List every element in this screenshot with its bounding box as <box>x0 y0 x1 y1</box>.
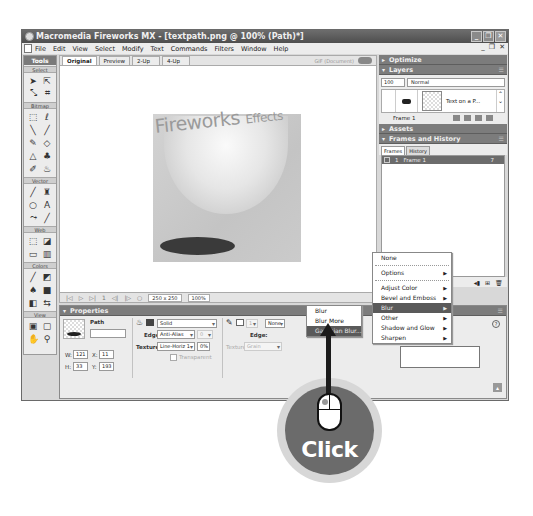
stroke-type-select[interactable]: None <box>265 319 285 328</box>
menu-select[interactable]: Select <box>95 45 115 53</box>
fill-texture-select[interactable]: Line-Horiz 1 <box>157 342 195 351</box>
first-frame-icon[interactable]: |◁ <box>66 294 73 301</box>
visibility-toggle[interactable] <box>382 90 396 112</box>
menu-item-blur[interactable]: Blur▶ <box>373 303 451 313</box>
next-frame-icon[interactable]: |▷ <box>124 294 131 301</box>
doc-close-button[interactable]: ✕ <box>499 43 505 51</box>
stroke-size-select[interactable]: 1 <box>246 319 258 328</box>
canvas-image[interactable]: Fireworks Effects <box>153 114 301 262</box>
frame-label[interactable]: Frame 1 <box>393 115 415 121</box>
layers-scrollbar[interactable]: ⌃⌄ <box>496 90 504 112</box>
layer-name[interactable]: Text on a P... <box>446 98 496 104</box>
tab-original[interactable]: Original <box>62 56 97 65</box>
rubber-stamp-tool-icon[interactable]: ♣ <box>41 150 53 161</box>
blur-tool-icon[interactable]: △ <box>27 150 39 161</box>
menu-text[interactable]: Text <box>151 45 164 53</box>
hide-slices-icon[interactable]: ▭ <box>27 248 39 259</box>
tab-frames[interactable]: Frames <box>381 146 405 155</box>
text-tool-icon[interactable]: A <box>41 199 53 210</box>
fill-color-swatch[interactable] <box>146 319 154 326</box>
stroke-texture-select[interactable]: Grain <box>244 342 282 351</box>
menu-item-blur-basic[interactable]: Blur <box>307 306 361 316</box>
brush-tool-icon[interactable]: ╱ <box>41 124 53 135</box>
eyedropper-tool-icon[interactable]: ✐ <box>27 163 39 174</box>
height-field[interactable]: 33 <box>73 362 88 371</box>
default-colors-icon[interactable]: ◧ <box>27 297 39 308</box>
new-sublayer-icon[interactable] <box>453 115 460 121</box>
fill-type-select[interactable]: Solid <box>157 319 217 328</box>
crop-tool-icon[interactable]: ⌗ <box>41 88 53 99</box>
delete-frame-icon[interactable]: 🗑 <box>495 279 503 286</box>
menu-item-shadow-glow[interactable]: Shadow and Glow▶ <box>373 323 451 333</box>
zoom-level[interactable]: 100% <box>188 294 210 302</box>
fill-swatch-icon[interactable]: ■ <box>41 284 53 295</box>
menu-help[interactable]: Help <box>274 45 289 53</box>
transparent-checkbox[interactable] <box>170 354 177 361</box>
loop-icon[interactable]: ○ <box>137 294 142 301</box>
subselection-tool-icon[interactable]: ⇱ <box>41 75 53 86</box>
menu-edit[interactable]: Edit <box>53 45 66 53</box>
last-frame-icon[interactable]: ▷| <box>89 294 96 301</box>
menu-item-options[interactable]: Options▶ <box>373 268 451 278</box>
add-frame-icon[interactable]: ⊞ <box>485 279 490 286</box>
menu-commands[interactable]: Commands <box>171 45 208 53</box>
show-slices-icon[interactable]: ▥ <box>41 248 53 259</box>
stroke-pencil-icon[interactable]: ✎ <box>226 318 233 327</box>
effects-list[interactable] <box>400 346 480 368</box>
new-layer-icon[interactable] <box>464 115 471 121</box>
y-field[interactable]: 193 <box>99 362 114 371</box>
fill-bucket-icon[interactable]: ♨ <box>136 318 143 327</box>
eraser-tool-icon[interactable]: ◇ <box>41 137 53 148</box>
x-field[interactable]: 11 <box>99 350 114 359</box>
add-mask-icon[interactable] <box>475 115 482 121</box>
tab-2up[interactable]: 2-Up <box>132 56 160 65</box>
swap-colors-icon[interactable]: ⇆ <box>41 297 53 308</box>
standard-screen-icon[interactable]: ▣ <box>27 320 39 331</box>
frame-row[interactable]: 1 Frame 1 7 <box>382 156 504 164</box>
menu-filters[interactable]: Filters <box>214 45 233 53</box>
blend-mode-select[interactable]: Normal <box>407 78 505 87</box>
fill-edge-select[interactable]: Anti-Alias <box>157 330 195 339</box>
pointer-tool-icon[interactable]: ➤ <box>27 75 39 86</box>
menu-item-adjust-color[interactable]: Adjust Color▶ <box>373 283 451 293</box>
slice-tool-icon[interactable]: ◪ <box>41 235 53 246</box>
freeform-tool-icon[interactable]: ⤳ <box>27 212 39 223</box>
opacity-field[interactable]: 100 <box>381 78 405 87</box>
hand-tool-icon[interactable]: ✋ <box>27 333 39 344</box>
zoom-tool-icon[interactable]: ⚲ <box>41 333 53 344</box>
fill-texture-amount[interactable]: 0% <box>197 342 210 351</box>
menu-item-sharpen[interactable]: Sharpen▶ <box>373 333 451 343</box>
tab-history[interactable]: History <box>406 146 430 155</box>
expand-panel-icon[interactable]: ▴ <box>493 383 502 392</box>
stroke-color-icon[interactable]: ╱ <box>27 271 39 282</box>
stroke-color-swatch[interactable] <box>236 319 244 326</box>
doc-restore-button[interactable]: ❐ <box>489 43 495 51</box>
menu-file[interactable]: File <box>35 45 46 53</box>
pencil-tool-icon[interactable]: ✎ <box>27 137 39 148</box>
ellipse-tool-icon[interactable]: ○ <box>27 199 39 210</box>
close-button[interactable]: ✕ <box>495 31 506 42</box>
pen-tool-icon[interactable]: ♜ <box>41 186 53 197</box>
quick-export-icon[interactable] <box>358 57 372 64</box>
optimize-panel-header[interactable]: ▸Optimize <box>379 55 507 65</box>
menu-view[interactable]: View <box>72 45 87 53</box>
help-icon[interactable]: ? <box>492 320 500 328</box>
distribute-frames-icon[interactable]: ◂▮ <box>474 279 480 286</box>
layers-panel-header[interactable]: ▾Layers☰ <box>379 65 507 75</box>
delete-layer-icon[interactable] <box>486 115 493 121</box>
menu-item-bevel-emboss[interactable]: Bevel and Emboss▶ <box>373 293 451 303</box>
magic-wand-tool-icon[interactable]: ╲ <box>27 124 39 135</box>
full-screen-icon[interactable]: ▢ <box>41 320 53 331</box>
knife-tool-icon[interactable]: ╱ <box>41 212 53 223</box>
shadow-ellipse[interactable] <box>160 237 235 255</box>
menu-window[interactable]: Window <box>241 45 267 53</box>
scale-tool-icon[interactable]: ⤡ <box>27 88 39 99</box>
frames-history-panel-header[interactable]: ▾Frames and History☰ <box>379 134 507 144</box>
document-icon[interactable] <box>24 44 32 53</box>
assets-panel-header[interactable]: ▸Assets <box>379 124 507 134</box>
tab-4up[interactable]: 4-Up <box>162 56 190 65</box>
minimize-button[interactable]: _ <box>471 31 482 42</box>
tab-preview[interactable]: Preview <box>99 56 130 65</box>
fill-edge-amount[interactable]: 0 <box>197 330 213 339</box>
paint-bucket-tool-icon[interactable]: ♨ <box>41 163 53 174</box>
